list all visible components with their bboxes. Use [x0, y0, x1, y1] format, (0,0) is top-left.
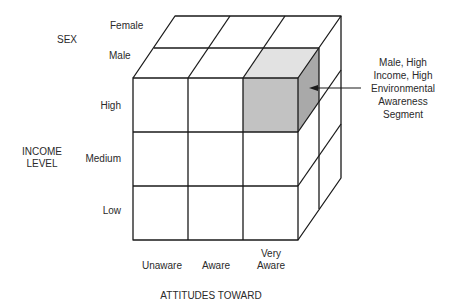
sex-level-male: Male: [109, 50, 131, 61]
attitude-level-aware: Aware: [202, 260, 231, 271]
attitude-level-unaware: Unaware: [142, 260, 182, 271]
callout-arrow: [309, 85, 361, 91]
attitude-level-very-aware-line1: Very: [261, 248, 281, 259]
sex-axis-title: SEX: [57, 34, 77, 45]
income-axis-title-line1: INCOME: [22, 146, 62, 157]
callout-line-5: Segment: [383, 109, 423, 120]
callout-line-3: Environmental: [371, 83, 435, 94]
income-level-medium: Medium: [85, 153, 121, 164]
attitude-level-very-aware-line2: Aware: [257, 260, 286, 271]
attitudes-axis-title: ATTITUDES TOWARD: [160, 290, 261, 301]
callout-line-2: Income, High: [374, 70, 433, 81]
income-level-low: Low: [103, 205, 122, 216]
callout-line-1: Male, High: [379, 57, 427, 68]
segmentation-cube-diagram: SEX Female Male INCOME LEVEL High Medium…: [0, 0, 453, 302]
income-axis-title-line2: LEVEL: [26, 158, 58, 169]
highlight-front-face: [243, 78, 298, 132]
callout-line-4: Awareness: [378, 96, 427, 107]
callout-text: Male, High Income, High Environmental Aw…: [371, 57, 435, 120]
income-level-high: High: [100, 100, 121, 111]
sex-level-female: Female: [110, 20, 144, 31]
